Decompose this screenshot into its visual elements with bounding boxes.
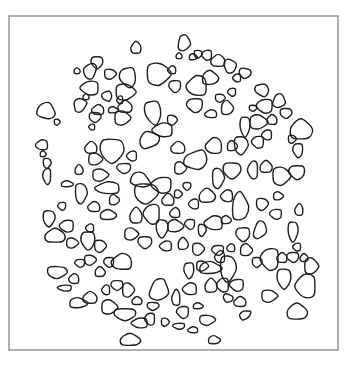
particle-outline bbox=[162, 193, 174, 205]
particle-outline bbox=[43, 169, 51, 185]
particle-outline bbox=[40, 151, 46, 157]
particle-outline bbox=[174, 190, 182, 198]
particle-outline bbox=[148, 276, 173, 303]
particle-outline bbox=[240, 117, 250, 137]
particle-outline bbox=[48, 267, 68, 279]
particle-outline bbox=[86, 224, 94, 232]
particle-outline bbox=[274, 192, 284, 200]
particle-outline bbox=[260, 160, 272, 172]
particle-outline bbox=[256, 99, 272, 113]
particle-outline bbox=[189, 54, 197, 60]
particle-outline bbox=[117, 164, 131, 174]
particle-outline bbox=[205, 278, 217, 292]
particle-outline bbox=[95, 182, 119, 194]
particle-outline bbox=[100, 139, 124, 163]
particle-outline bbox=[188, 327, 198, 333]
particle-outline bbox=[147, 302, 159, 310]
particle-outline bbox=[171, 141, 185, 153]
particle-outline bbox=[126, 151, 136, 161]
particle-outline bbox=[193, 243, 205, 255]
particle-outline bbox=[109, 195, 119, 205]
particle-outline bbox=[193, 303, 203, 309]
particle-outline bbox=[208, 336, 220, 344]
particle-outline bbox=[83, 291, 97, 303]
particle-outline bbox=[293, 144, 303, 158]
particle-outline bbox=[93, 169, 109, 181]
particle-outline bbox=[138, 237, 152, 249]
particle-outline bbox=[223, 163, 241, 179]
particle-outline bbox=[186, 99, 202, 113]
particle-outline bbox=[204, 216, 222, 230]
particle-outline bbox=[71, 96, 88, 114]
particle-outline bbox=[67, 238, 79, 248]
particle-outline bbox=[253, 81, 271, 98]
particle-outline bbox=[252, 220, 270, 241]
particle-outline bbox=[184, 263, 194, 279]
particle-outline bbox=[169, 81, 181, 93]
particle-outline bbox=[200, 315, 216, 325]
particle-outline bbox=[170, 208, 180, 218]
particle-outline bbox=[211, 54, 225, 66]
particle-outline bbox=[101, 90, 114, 103]
particle-outline bbox=[233, 192, 249, 220]
particle-outline bbox=[250, 115, 268, 129]
particle-figure bbox=[0, 0, 348, 367]
particle-outline bbox=[100, 209, 116, 219]
particle-outline bbox=[75, 184, 87, 204]
particle-outline bbox=[203, 70, 219, 84]
particle-outline bbox=[220, 190, 232, 202]
particle-outline bbox=[295, 203, 303, 215]
particle-outline bbox=[288, 222, 298, 242]
particle-outline bbox=[201, 50, 211, 60]
particle-outline bbox=[61, 181, 73, 187]
particle-outline bbox=[167, 115, 177, 125]
particle-outline bbox=[131, 41, 141, 53]
particle-outline bbox=[176, 53, 182, 59]
particle-outlines bbox=[35, 34, 318, 345]
particle-outline bbox=[132, 297, 142, 305]
particle-outline bbox=[197, 261, 209, 271]
particle-outline bbox=[188, 199, 198, 209]
particle-outline bbox=[58, 202, 66, 210]
particle-outline bbox=[95, 266, 105, 276]
particle-outline bbox=[256, 198, 268, 210]
particle-outline bbox=[222, 293, 234, 304]
particle-outline bbox=[69, 274, 79, 284]
particle-outline bbox=[183, 182, 191, 190]
particle-outline bbox=[81, 232, 95, 250]
particle-outline bbox=[137, 128, 162, 150]
particle-outline bbox=[200, 261, 222, 273]
particle-outline bbox=[204, 110, 216, 118]
particle-outline bbox=[125, 228, 139, 240]
particle-outline bbox=[185, 219, 195, 229]
particle-outline bbox=[293, 243, 301, 251]
particle-outline bbox=[227, 141, 237, 151]
particle-outline bbox=[287, 253, 299, 263]
particle-outline bbox=[54, 119, 60, 125]
particle-outline bbox=[80, 81, 98, 95]
particle-outline bbox=[129, 170, 153, 190]
particle-outline bbox=[120, 333, 140, 345]
particle-outline bbox=[115, 111, 131, 125]
particle-outline bbox=[89, 153, 103, 165]
particle-outline bbox=[85, 141, 97, 153]
particle-outline bbox=[233, 74, 241, 82]
particle-outline bbox=[175, 162, 187, 174]
particle-outline bbox=[81, 61, 98, 80]
particle-outline bbox=[147, 63, 171, 85]
particle-outline bbox=[43, 158, 51, 168]
particle-outline bbox=[182, 283, 196, 295]
particle-outline bbox=[85, 255, 97, 265]
particle-outline bbox=[234, 296, 246, 306]
particle-outline bbox=[198, 224, 206, 236]
particle-outline bbox=[83, 94, 89, 100]
particle-outline bbox=[300, 254, 308, 262]
particle-outline bbox=[205, 137, 221, 153]
particle-outline bbox=[123, 283, 135, 297]
particle-outline bbox=[35, 140, 47, 150]
particle-outline bbox=[251, 136, 263, 148]
particle-outline bbox=[238, 308, 253, 321]
particle-outline bbox=[173, 323, 185, 329]
particle-outline bbox=[89, 124, 95, 130]
particle-outline bbox=[161, 318, 169, 326]
